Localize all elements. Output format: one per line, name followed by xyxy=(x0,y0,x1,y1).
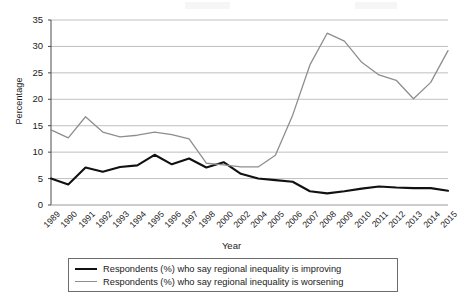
y-tick-label: 30 xyxy=(25,40,43,51)
data-series-group xyxy=(51,33,448,193)
legend-item-improving: Respondents (%) who say regional inequal… xyxy=(75,262,393,275)
y-tick-label: 5 xyxy=(25,173,43,184)
legend-item-worsening: Respondents (%) who say regional inequal… xyxy=(75,275,393,288)
plot-canvas xyxy=(0,0,463,299)
legend-line-swatch-worsening xyxy=(75,281,97,282)
legend-label-worsening: Respondents (%) who say regional inequal… xyxy=(103,276,343,288)
series-line-improving xyxy=(51,155,448,194)
chart-legend: Respondents (%) who say regional inequal… xyxy=(68,258,398,292)
y-tick-label: 0 xyxy=(25,199,43,210)
y-tick-label: 20 xyxy=(25,93,43,104)
x-axis-title: Year xyxy=(0,240,463,251)
y-tick-label: 35 xyxy=(25,14,43,25)
legend-line-swatch-improving xyxy=(75,268,97,270)
y-tick-label: 25 xyxy=(25,67,43,78)
line-chart-figure: Percentage 05101520253035 19891990199119… xyxy=(0,0,463,299)
y-tick-label: 15 xyxy=(25,120,43,131)
series-line-worsening xyxy=(51,33,448,167)
y-tick-label: 10 xyxy=(25,146,43,157)
gridlines xyxy=(51,20,448,179)
plot-area: Percentage 05101520253035 19891990199119… xyxy=(0,0,463,299)
y-axis-title: Percentage xyxy=(14,51,24,151)
legend-label-improving: Respondents (%) who say regional inequal… xyxy=(103,263,341,275)
